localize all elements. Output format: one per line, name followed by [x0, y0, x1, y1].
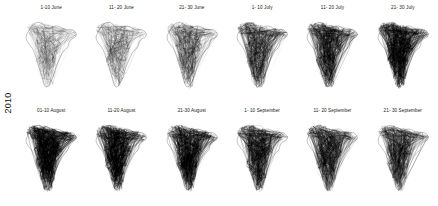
map-panel: 21- 30 September: [368, 103, 438, 206]
row-label-year-text: 2010: [3, 92, 13, 113]
panel-row-bottom: 01-10 August11-20 August21-30 August1- 1…: [16, 103, 438, 206]
map-panel: 01-10 August: [16, 103, 86, 206]
row-label-year: 2010: [0, 0, 16, 206]
panel-title: 21-30 August: [178, 107, 206, 115]
map-panel: 11- 20 June: [86, 0, 156, 103]
map-graphic: [227, 12, 297, 103]
map-graphic: [368, 12, 438, 103]
map-graphic: [157, 115, 227, 206]
map-graphic: [368, 115, 438, 206]
panel-title: 11- 20 July: [321, 4, 344, 12]
map-panel: 1- 10 July: [227, 0, 297, 103]
panel-title: 1- 10 July: [252, 4, 273, 12]
panel-grid: 1-10 June11- 20 June21- 30 June1- 10 Jul…: [16, 0, 438, 206]
map-panel: 1- 10 September: [227, 103, 297, 206]
map-panel: 21- 30 June: [157, 0, 227, 103]
map-graphic: [86, 12, 156, 103]
map-panel: 21-30 August: [157, 103, 227, 206]
panel-row-top: 1-10 June11- 20 June21- 30 June1- 10 Jul…: [16, 0, 438, 103]
panel-title: 11- 20 June: [109, 4, 134, 12]
panel-title: 21- 30 July: [391, 4, 415, 12]
panel-title: 11-20 August: [108, 107, 136, 115]
map-graphic: [16, 12, 86, 103]
map-graphic: [16, 115, 86, 206]
map-panel: 1-10 June: [16, 0, 86, 103]
panel-title: 1- 10 September: [244, 107, 280, 115]
map-graphic: [86, 115, 156, 206]
map-graphic: [157, 12, 227, 103]
panel-title: 11- 20 September: [313, 107, 351, 115]
panel-title: 01-10 August: [37, 107, 65, 115]
map-panel: 11- 20 July: [297, 0, 367, 103]
map-graphic: [297, 115, 367, 206]
map-graphic: [297, 12, 367, 103]
map-panel: 11- 20 September: [297, 103, 367, 206]
panel-title: 21- 30 June: [179, 4, 204, 12]
figure-panel-grid: 2010 1-10 June11- 20 June21- 30 June1- 1…: [0, 0, 438, 206]
panel-title: 21- 30 September: [384, 107, 422, 115]
panel-title: 1-10 June: [40, 4, 61, 12]
map-graphic: [227, 115, 297, 206]
map-panel: 21- 30 July: [368, 0, 438, 103]
map-panel: 11-20 August: [86, 103, 156, 206]
